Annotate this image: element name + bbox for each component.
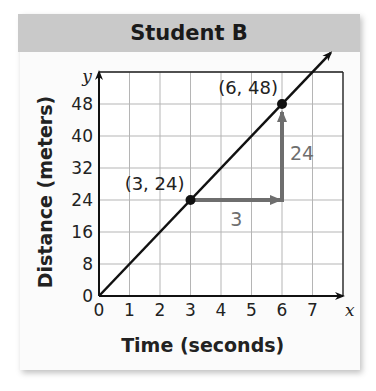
x-tick-label: 3 xyxy=(185,300,196,320)
point-label: (6, 48) xyxy=(218,77,278,98)
x-axis-label: Time (seconds) xyxy=(121,334,284,356)
line-chart: 01234567081624324048xyTime (seconds)Dist… xyxy=(0,0,376,391)
y-axis-label: Distance (meters) xyxy=(34,96,56,289)
x-tick-label: 7 xyxy=(307,300,318,320)
y-tick-label: 32 xyxy=(71,158,93,178)
y-tick-label: 40 xyxy=(71,126,93,146)
y-axis-variable: y xyxy=(81,66,92,86)
data-point xyxy=(277,99,287,109)
y-tick-label: 48 xyxy=(71,94,93,114)
x-tick-label: 6 xyxy=(277,300,288,320)
x-tick-label: 0 xyxy=(94,300,105,320)
y-tick-label: 0 xyxy=(82,286,93,306)
point-label: (3, 24) xyxy=(125,173,185,194)
run-label: 3 xyxy=(230,208,242,230)
y-tick-label: 24 xyxy=(71,190,93,210)
x-tick-label: 1 xyxy=(124,300,135,320)
y-tick-label: 16 xyxy=(71,222,93,242)
x-tick-label: 2 xyxy=(155,300,166,320)
x-axis-variable: x xyxy=(345,300,355,320)
x-tick-label: 5 xyxy=(246,300,257,320)
rise-label: 24 xyxy=(290,142,314,164)
x-tick-label: 4 xyxy=(216,300,227,320)
y-tick-label: 8 xyxy=(82,254,93,274)
data-point xyxy=(186,195,196,205)
